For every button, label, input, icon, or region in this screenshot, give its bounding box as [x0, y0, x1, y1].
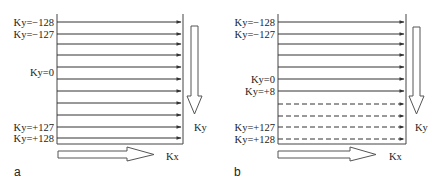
- kx-axis-label: Kx: [389, 151, 403, 162]
- ky-row-label: Ky=0: [251, 74, 275, 85]
- k-space-trajectory-diagram: Ky=−128Ky=−127Ky=0Ky=+127Ky=+128 Ky Kx a…: [0, 0, 439, 187]
- panel-a-lines: [57, 22, 181, 138]
- panel-a: Ky=−128Ky=−127Ky=0Ky=+127Ky=+128 Ky Kx a: [14, 14, 208, 179]
- ky-row-label: Ky=−127: [14, 29, 54, 40]
- panel-b-row-labels: Ky=−128Ky=−127Ky=0Ky=+8Ky=+127Ky=+128: [235, 17, 275, 145]
- ky-row-label: Ky=−127: [235, 29, 275, 40]
- ky-direction-arrow-icon: [409, 27, 424, 114]
- panel-a-letter: a: [14, 165, 21, 179]
- kx-direction-arrow-icon: [278, 147, 376, 161]
- ky-row-label: Ky=+128: [14, 133, 54, 144]
- panel-b-letter: b: [234, 165, 241, 179]
- panel-b: Ky=−128Ky=−127Ky=0Ky=+8Ky=+127Ky=+128 Ky…: [234, 14, 429, 179]
- ky-direction-arrow-icon: [187, 26, 202, 114]
- ky-axis-label: Ky: [194, 122, 208, 133]
- ky-row-label: Ky=+8: [245, 86, 275, 97]
- ky-row-label: Ky=−128: [235, 17, 275, 28]
- ky-axis-label: Ky: [415, 122, 429, 133]
- ky-row-label: Ky=−128: [14, 17, 54, 28]
- ky-row-label: Ky=+127: [14, 122, 54, 133]
- ky-row-label: Ky=0: [30, 67, 54, 78]
- kx-direction-arrow-icon: [58, 147, 154, 161]
- ky-row-label: Ky=+128: [235, 134, 275, 145]
- panel-b-lines: [278, 22, 404, 139]
- panel-a-row-labels: Ky=−128Ky=−127Ky=0Ky=+127Ky=+128: [14, 17, 54, 144]
- ky-row-label: Ky=+127: [235, 122, 275, 133]
- kx-axis-label: Kx: [166, 151, 180, 162]
